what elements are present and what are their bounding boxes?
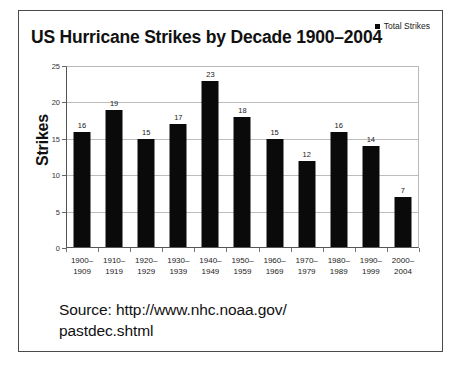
x-tick-label-line: 1950–	[231, 255, 253, 266]
bar-value-label: 17	[174, 113, 182, 122]
x-tick-mark	[130, 248, 131, 252]
x-tick-mark	[259, 248, 260, 252]
bar-value-label: 14	[367, 135, 375, 144]
source-caption-line-1: Source: http://www.nhc.noaa.gov/	[59, 299, 287, 320]
x-tick-label-line: 1900–	[71, 255, 93, 266]
bar[interactable]	[234, 117, 251, 248]
x-tick-label-line: 1919	[103, 266, 125, 277]
x-tick-label-line: 1910–	[103, 255, 125, 266]
y-tick-label: 15	[52, 134, 60, 143]
bar-value-label: 18	[238, 106, 246, 115]
x-tick-mark	[387, 248, 388, 252]
bar-slot: 15	[130, 66, 162, 248]
x-tick-label-line: 1960–	[263, 255, 285, 266]
bar[interactable]	[74, 132, 91, 248]
bar-slot: 23	[194, 66, 226, 248]
x-tick-label-line: 1990–	[360, 255, 382, 266]
x-tick-label-line: 1939	[167, 266, 189, 277]
x-tick-mark	[419, 248, 420, 252]
bar-slot: 16	[66, 66, 98, 248]
x-tick-mark	[226, 248, 227, 252]
x-tick-mark	[291, 248, 292, 252]
bar[interactable]	[330, 132, 347, 248]
x-tick-label: 1990–1999	[360, 255, 382, 277]
bar-value-label: 23	[206, 70, 214, 79]
x-tick-label: 1910–1919	[103, 255, 125, 277]
x-tick-mark	[194, 248, 195, 252]
figure-container: US Hurricane Strikes by Decade 1900–2004…	[18, 10, 443, 352]
bar-value-label: 7	[401, 186, 405, 195]
x-tick-label: 1930–1939	[167, 255, 189, 277]
bar-slot: 15	[259, 66, 291, 248]
x-tick-label-line: 1930–	[167, 255, 189, 266]
x-tick-label-line: 1920–	[135, 255, 157, 266]
bar[interactable]	[362, 146, 379, 248]
bar[interactable]	[266, 139, 283, 248]
x-tick-label-line: 2000–	[392, 255, 414, 266]
y-tick-label: 10	[52, 171, 60, 180]
x-tick-label-line: 1969	[263, 266, 285, 277]
x-tick-label: 1900–1909	[71, 255, 93, 277]
plot-area: 0510152025 161915172318151216147 1900–19…	[66, 66, 419, 248]
bar-value-label: 16	[335, 121, 343, 130]
x-tick-label: 1940–1949	[199, 255, 221, 277]
bar[interactable]	[202, 81, 219, 248]
x-tick-label-line: 1989	[328, 266, 350, 277]
bar-slot: 7	[387, 66, 419, 248]
x-tick-label: 1950–1959	[231, 255, 253, 277]
bar-slot: 17	[162, 66, 194, 248]
bar[interactable]	[170, 124, 187, 248]
y-tick-label: 0	[56, 244, 60, 253]
x-tick-label-line: 1909	[71, 266, 93, 277]
y-axis-title: Strikes	[34, 110, 52, 170]
x-tick-label: 1920–1929	[135, 255, 157, 277]
x-tick-label: 1980–1989	[328, 255, 350, 277]
bar-slot: 12	[291, 66, 323, 248]
bar-value-label: 12	[302, 150, 310, 159]
legend-label: Total Strikes	[384, 21, 430, 31]
bar-slot: 19	[98, 66, 130, 248]
x-tick-mark	[355, 248, 356, 252]
x-tick-label-line: 1949	[199, 266, 221, 277]
bar-value-label: 15	[142, 128, 150, 137]
x-tick-mark	[98, 248, 99, 252]
x-tick-mark	[162, 248, 163, 252]
bar-value-label: 19	[110, 99, 118, 108]
x-tick-label-line: 2004	[392, 266, 414, 277]
x-tick-label-line: 1979	[296, 266, 318, 277]
chart-title: US Hurricane Strikes by Decade 1900–2004	[31, 27, 382, 48]
x-tick-mark	[323, 248, 324, 252]
x-tick-label: 2000–2004	[392, 255, 414, 277]
legend: Total Strikes	[375, 21, 430, 31]
bar-value-label: 15	[270, 128, 278, 137]
source-caption-line-2: pastdec.shtml	[59, 320, 287, 341]
bar[interactable]	[298, 161, 315, 248]
legend-swatch-icon	[375, 24, 380, 29]
bar-value-label: 16	[78, 121, 86, 130]
bar[interactable]	[106, 110, 123, 248]
bar[interactable]	[394, 197, 411, 248]
x-tick-label: 1970–1979	[296, 255, 318, 277]
bar[interactable]	[138, 139, 155, 248]
y-tick-label: 5	[56, 207, 60, 216]
x-tick-label-line: 1929	[135, 266, 157, 277]
x-tick-label-line: 1940–	[199, 255, 221, 266]
x-tick-mark	[66, 248, 67, 252]
x-tick-label-line: 1970–	[296, 255, 318, 266]
bar-slot: 16	[323, 66, 355, 248]
x-tick-label-line: 1980–	[328, 255, 350, 266]
x-tick-label-line: 1999	[360, 266, 382, 277]
y-tick-label: 20	[52, 98, 60, 107]
bar-slot: 14	[355, 66, 387, 248]
x-tick-label-line: 1959	[231, 266, 253, 277]
source-caption: Source: http://www.nhc.noaa.gov/ pastdec…	[59, 299, 287, 341]
bar-slot: 18	[226, 66, 258, 248]
y-tick-label: 25	[52, 62, 60, 71]
x-tick-label: 1960–1969	[263, 255, 285, 277]
